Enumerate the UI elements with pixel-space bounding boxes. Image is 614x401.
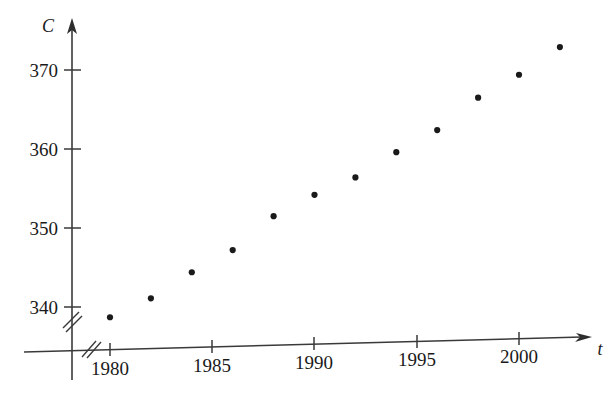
data-points-layer bbox=[107, 44, 563, 320]
plot-area: 370 360 350 340 1980 1985 1990 1995 2000… bbox=[0, 0, 614, 401]
scatter-chart: 370 360 350 340 1980 1985 1990 1995 2000… bbox=[0, 0, 614, 401]
y-tick-label-360: 360 bbox=[30, 139, 59, 160]
data-point bbox=[107, 314, 113, 320]
data-point bbox=[557, 44, 563, 50]
data-point bbox=[189, 269, 195, 275]
data-point bbox=[434, 127, 440, 133]
data-point bbox=[271, 213, 277, 219]
y-tick-label-350: 350 bbox=[30, 218, 59, 239]
x-axis-line bbox=[24, 337, 582, 352]
data-point bbox=[352, 174, 358, 180]
y-tick-label-370: 370 bbox=[30, 60, 59, 81]
x-tick-label-1985: 1985 bbox=[193, 355, 231, 376]
x-axis-title: t bbox=[597, 339, 603, 359]
data-point bbox=[516, 72, 522, 78]
data-point bbox=[148, 295, 154, 301]
data-point bbox=[311, 192, 317, 198]
x-tick-label-2000: 2000 bbox=[500, 346, 538, 367]
x-tick-label-1990: 1990 bbox=[295, 352, 333, 373]
data-point bbox=[393, 149, 399, 155]
data-point bbox=[230, 247, 236, 253]
data-point bbox=[475, 95, 481, 101]
x-tick-label-1980: 1980 bbox=[91, 358, 129, 379]
y-tick-label-340: 340 bbox=[30, 297, 59, 318]
x-tick-label-1995: 1995 bbox=[398, 349, 436, 370]
y-axis-title: C bbox=[42, 16, 55, 36]
